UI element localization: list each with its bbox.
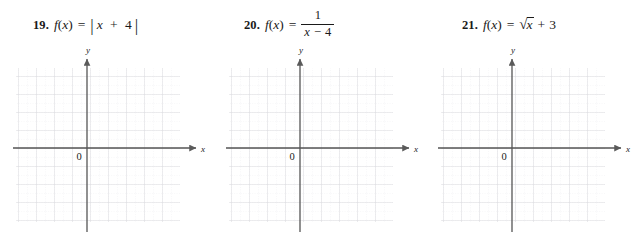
- problem-20: 20. f ( x ) = 1 x−4: [213, 0, 426, 235]
- problem-19-number: 19.: [33, 19, 49, 32]
- denominator-variable: x: [304, 25, 310, 39]
- x-axis-label: x: [413, 144, 418, 154]
- origin-label: 0: [76, 151, 81, 162]
- grid-lines: [16, 68, 180, 222]
- outer-operator: +: [538, 18, 546, 32]
- problem-20-number: 20.: [244, 19, 260, 32]
- denominator-constant: 4: [325, 25, 331, 39]
- radicand: x: [527, 17, 534, 32]
- outer-constant: 3: [549, 18, 556, 32]
- abs-inner-variable: x: [97, 17, 103, 32]
- abs-inner-operator: +: [110, 17, 118, 32]
- fraction-numerator: 1: [311, 9, 325, 23]
- fraction: 1 x−4: [301, 9, 334, 38]
- equals-sign: =: [289, 18, 297, 32]
- y-axis-label: y: [510, 45, 515, 55]
- close-paren: ): [279, 18, 284, 32]
- origin-label: 0: [501, 151, 506, 162]
- grid-lines: [229, 68, 393, 222]
- denominator-operator: −: [314, 25, 321, 39]
- equals-sign: =: [78, 18, 86, 32]
- square-root: √ x: [519, 18, 533, 33]
- x-axis-label: x: [625, 144, 630, 154]
- problem-21: 21. f ( x ) = √ x + 3: [425, 0, 638, 235]
- problem-19: 19. f ( x ) = | x + 4 |: [0, 0, 213, 235]
- equals-sign: =: [507, 18, 515, 32]
- problem-21-statement: 21. f ( x ) = √ x + 3: [462, 8, 556, 42]
- problem-19-statement: 19. f ( x ) = | x + 4 |: [33, 8, 138, 42]
- close-paren: ): [68, 18, 73, 32]
- coordinate-grid-19: x y 0: [0, 40, 213, 235]
- x-axis-label: x: [200, 144, 205, 154]
- coordinate-grid-21: x y 0: [425, 40, 638, 235]
- problem-21-number: 21.: [462, 19, 478, 32]
- y-axis-label: y: [85, 45, 90, 55]
- close-paren: ): [497, 18, 502, 32]
- problem-20-statement: 20. f ( x ) = 1 x−4: [244, 8, 334, 42]
- abs-inner-constant: 4: [125, 17, 132, 32]
- grid-lines: [441, 68, 605, 222]
- coordinate-grid-20: x y 0: [213, 40, 426, 235]
- fraction-denominator: x−4: [301, 25, 334, 39]
- origin-label: 0: [289, 151, 294, 162]
- y-axis-label: y: [298, 45, 303, 55]
